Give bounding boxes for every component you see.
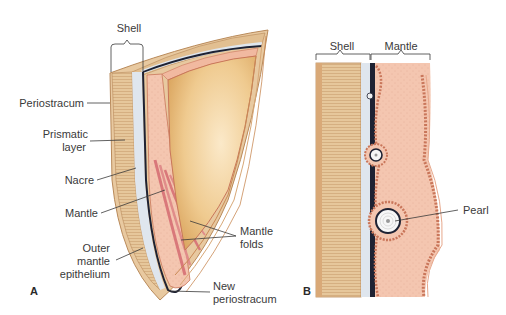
label-outer-mantle-3: epithelium <box>0 268 110 281</box>
label-a-shell: Shell <box>114 22 144 35</box>
label-b-mantle: Mantle <box>380 40 422 53</box>
label-new-periostracum-1: New <box>213 280 235 293</box>
panel-label-b: B <box>303 285 311 297</box>
panel-b-illustration <box>316 50 458 297</box>
label-new-periostracum-2: periostracum <box>213 293 277 306</box>
label-a-mantle: Mantle <box>0 207 98 220</box>
label-pearl: Pearl <box>463 204 489 217</box>
label-mantle-folds-1: Mantle <box>240 225 273 238</box>
label-prismatic-1: Prismatic <box>0 128 88 141</box>
panel-a-illustration <box>110 30 268 300</box>
label-periostracum: Periostracum <box>0 97 84 110</box>
label-b-shell: Shell <box>327 40 357 53</box>
panel-label-a: A <box>30 285 38 297</box>
label-mantle-folds-2: folds <box>240 238 263 251</box>
label-outer-mantle-2: mantle <box>0 255 110 268</box>
label-prismatic-2: layer <box>0 141 86 154</box>
label-outer-mantle-1: Outer <box>0 242 110 255</box>
label-nacre: Nacre <box>0 174 94 187</box>
